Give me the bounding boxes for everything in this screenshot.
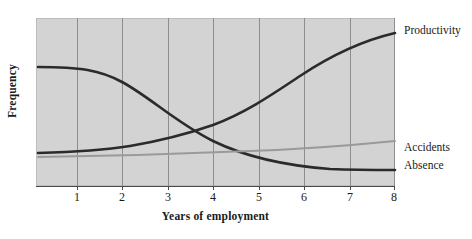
x-tick-label-6: 6 [292,190,316,204]
chart-figure: 1 2 3 4 5 6 7 8 Years of employment Freq… [0,0,472,239]
gridline-year-4 [213,18,214,186]
gridline-year-7 [350,18,351,186]
gridline-year-8 [394,18,395,186]
gridline-year-2 [122,18,123,186]
x-tick-label-3: 3 [156,190,180,204]
x-tick-label-5: 5 [247,190,271,204]
x-axis-line [36,186,395,187]
series-label-absence: Absence [404,159,444,172]
gridline-year-6 [304,18,305,186]
x-tick-label-4: 4 [201,190,225,204]
gridline-year-1 [77,18,78,186]
gridline-year-3 [168,18,169,186]
x-tick-label-1: 1 [65,190,89,204]
y-axis-title: Frequency [6,51,18,131]
x-tick-label-8: 8 [382,190,406,204]
x-axis-title: Years of employment [36,210,395,222]
plot-area-background [36,18,395,186]
gridline-year-5 [259,18,260,186]
x-tick-label-7: 7 [338,190,362,204]
series-label-productivity: Productivity [404,24,461,37]
x-tick-label-2: 2 [110,190,134,204]
series-label-accidents: Accidents [404,141,450,154]
